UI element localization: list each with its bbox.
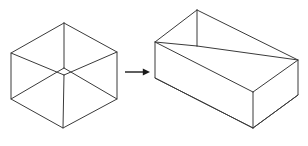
wireframe-cuboid	[155, 10, 298, 128]
wireframe-cuboid-inner-edge-7	[253, 95, 298, 128]
transformation-arrow	[125, 69, 150, 76]
wireframe-cube	[11, 23, 117, 128]
wireframe-cube-inner-edge-3	[63, 75, 64, 128]
wireframe-cube-inner-edge-2	[64, 52, 117, 75]
arrow-head	[143, 69, 150, 76]
geometry-illustration	[0, 0, 308, 146]
wireframe-cuboid-inner-edge-5	[253, 60, 298, 92]
wireframe-cube-inner-edge-4	[11, 68, 64, 99]
wireframe-cuboid-inner-edge-6	[155, 78, 253, 128]
wireframe-cuboid-inner-edge-4	[155, 42, 253, 92]
diagram-canvas	[0, 0, 308, 146]
wireframe-cube-inner-edge-5	[64, 68, 117, 99]
wireframe-cube-inner-edge-1	[11, 53, 64, 75]
